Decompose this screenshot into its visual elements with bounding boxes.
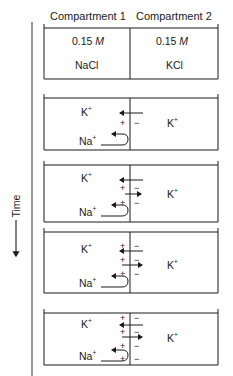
initial-table: [44, 24, 218, 79]
minus-sign: −: [134, 255, 139, 265]
c2-concentration: 0.15 M: [156, 35, 188, 47]
minus-sign: −: [134, 241, 139, 251]
panel-1-k-right-label: K+: [167, 117, 178, 129]
plus-sign: +: [120, 118, 125, 128]
panel-2-k-label: K+: [81, 172, 92, 184]
panel-4-na-label: Na+: [79, 350, 96, 362]
plus-sign: +: [120, 241, 125, 251]
panel-4-k-label: K+: [81, 318, 92, 330]
compartment-1-label: Compartment 1: [50, 10, 126, 22]
minus-sign: −: [134, 327, 139, 337]
minus-sign: −: [134, 198, 139, 208]
plus-sign: +: [120, 341, 125, 351]
minus-sign: −: [134, 269, 139, 279]
minus-sign: −: [134, 183, 139, 193]
diagram-graphics: [0, 0, 233, 376]
compartment-2-label: Compartment 2: [136, 10, 212, 22]
panel-3-k-label: K+: [81, 243, 92, 255]
panel-2-na-label: Na+: [79, 206, 96, 218]
time-axis-label: Time: [10, 188, 22, 224]
panel-4-k-right-label: K+: [167, 332, 178, 344]
plus-sign: +: [120, 183, 125, 193]
plus-sign: +: [120, 198, 125, 208]
c1-concentration: 0.15 M: [72, 35, 104, 47]
plus-sign: +: [120, 354, 125, 364]
panel-1-k-label: K+: [81, 106, 92, 118]
minus-sign: −: [134, 341, 139, 351]
plus-sign: +: [120, 269, 125, 279]
c2-solute: KCl: [166, 59, 183, 71]
plus-sign: +: [120, 313, 125, 323]
plus-sign: +: [120, 255, 125, 265]
panel-2-frame: [44, 161, 218, 222]
c1-solute: NaCl: [75, 59, 98, 71]
minus-sign: −: [134, 313, 139, 323]
plus-sign: +: [120, 327, 125, 337]
panel-1-frame: [44, 94, 218, 150]
panel-3-k-right-label: K+: [167, 259, 178, 271]
panel-2-k-right-label: K+: [167, 188, 178, 200]
panel-1-na-label: Na+: [79, 135, 96, 147]
minus-sign: −: [134, 354, 139, 364]
panel-3-frame: [44, 228, 218, 293]
panel-3-na-label: Na+: [79, 277, 96, 289]
minus-sign: −: [134, 118, 139, 128]
na-reflected-arrow-icon: [101, 134, 128, 145]
